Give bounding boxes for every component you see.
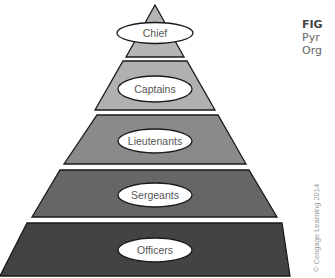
figure-label: FIG (302, 18, 323, 31)
tier-label-officers: Officers (137, 244, 173, 256)
tier-lieutenants: Lieutenants (64, 115, 246, 164)
caption-line-1: Pyr (302, 31, 323, 44)
tier-label-lieutenants: Lieutenants (128, 135, 182, 147)
figure-caption: FIG Pyr Org (302, 18, 323, 57)
tier-label-captains: Captains (134, 83, 175, 95)
tier-chief: Chief (117, 5, 193, 57)
tier-sergeants: Sergeants (32, 170, 277, 217)
tier-officers: Officers (0, 223, 290, 276)
pyramid-diagram: Chief Captains Lieutenants Sergeants Off… (0, 0, 300, 278)
tier-label-sergeants: Sergeants (131, 189, 179, 201)
caption-line-2: Org (302, 44, 323, 57)
copyright-notice: © Cengage Learning 2014 (312, 184, 321, 272)
tier-captains: Captains (95, 61, 215, 110)
tier-label-chief: Chief (143, 27, 168, 39)
